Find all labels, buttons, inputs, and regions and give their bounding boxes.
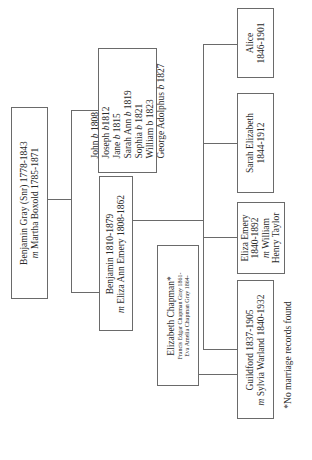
root-couple-text: Benjamin Gray (Snr) 1778-1843 m Martha B… [18, 141, 41, 265]
connector-children-trunk [203, 44, 204, 350]
child-name: Alice [244, 22, 255, 63]
parent-couple-box: Benjamin 1810-1879 m Eliza Ann Emery 180… [99, 176, 133, 331]
child-box-eliza-emery: Eliza Emery 1840-1892 m William Henry Ta… [237, 202, 285, 274]
connector-to-guildford [203, 349, 238, 350]
sibling-item: George Adolphus b 1827 [155, 63, 166, 158]
child-dates: 1844-1912 [256, 113, 267, 173]
parent-spouse: m Eliza Ann Emery 1808-1862 [116, 194, 127, 312]
siblings-list: John b 1808 Joseph b1812 Jane b 1815 Sar… [89, 63, 165, 158]
elizabeth-chapman-text: Elizabeth Chapman* Francis Edgar Chapman… [166, 272, 191, 359]
child-text: Guildford 1837-1905 m Sylvia Warland 184… [244, 294, 267, 405]
child-spouse: m William [261, 213, 271, 264]
chapman-child: Eva Amelia Chapman Gray 1864- [183, 272, 190, 359]
footnote: *No marriage records found [278, 290, 300, 420]
child-name: Eliza Emery [240, 213, 250, 264]
siblings-box: John b 1808 Joseph b1812 Jane b 1815 Sar… [98, 48, 157, 173]
child-name: Sarah Elizabeth [244, 113, 255, 173]
child-text: Alice 1846-1901 [244, 22, 267, 63]
child-text: Eliza Emery 1840-1892 m William Henry Ta… [240, 213, 282, 264]
child-box-guildford: Guildford 1837-1905 m Sylvia Warland 184… [237, 280, 274, 419]
child-spouse-cont: Henry Taylor [271, 213, 281, 264]
sibling-item: John b 1808 [89, 63, 100, 158]
root-spouse: m Martha Boxold 1785-1871 [30, 141, 41, 265]
connector-chapman-guildford [198, 374, 238, 375]
child-dates: 1840-1892 [251, 213, 261, 264]
connector-parent-out [132, 220, 203, 221]
connector-to-alice [203, 44, 238, 45]
child-spouse: m Sylvia Warland 1840-1932 [256, 294, 267, 405]
sibling-item: Sophia b 1821 [133, 63, 144, 158]
elizabeth-chapman-box: Elizabeth Chapman* Francis Edgar Chapman… [157, 245, 199, 386]
child-dates: 1846-1901 [256, 22, 267, 63]
parent-name: Benjamin 1810-1879 [105, 194, 116, 312]
connector-to-sarah-elizabeth [203, 143, 238, 144]
chapman-title: Elizabeth Chapman* [166, 272, 177, 359]
child-box-sarah-elizabeth: Sarah Elizabeth 1844-1912 [237, 93, 274, 193]
sibling-item: Jane b 1815 [111, 63, 122, 158]
root-name: Benjamin Gray (Snr) 1778-1843 [18, 141, 29, 265]
connector-to-eliza-emery [203, 237, 238, 238]
sibling-item: Sarah Ann b 1819 [122, 63, 133, 158]
connector-to-parent [71, 292, 99, 293]
child-box-alice: Alice 1846-1901 [237, 8, 274, 78]
connector-root-trunk [71, 110, 72, 293]
sibling-item: Joseph b1812 [100, 63, 111, 158]
parent-couple-text: Benjamin 1810-1879 m Eliza Ann Emery 180… [105, 194, 128, 312]
root-couple-box: Benjamin Gray (Snr) 1778-1843 m Martha B… [11, 107, 48, 299]
child-text: Sarah Elizabeth 1844-1912 [244, 113, 267, 173]
footnote-text: *No marriage records found [283, 301, 294, 408]
sibling-item: William b 1823 [144, 63, 155, 158]
chapman-child: Francis Edgar Chapman Gray 1861- [177, 272, 184, 359]
child-name: Guildford 1837-1905 [244, 294, 255, 405]
connector-root-out [47, 199, 72, 200]
